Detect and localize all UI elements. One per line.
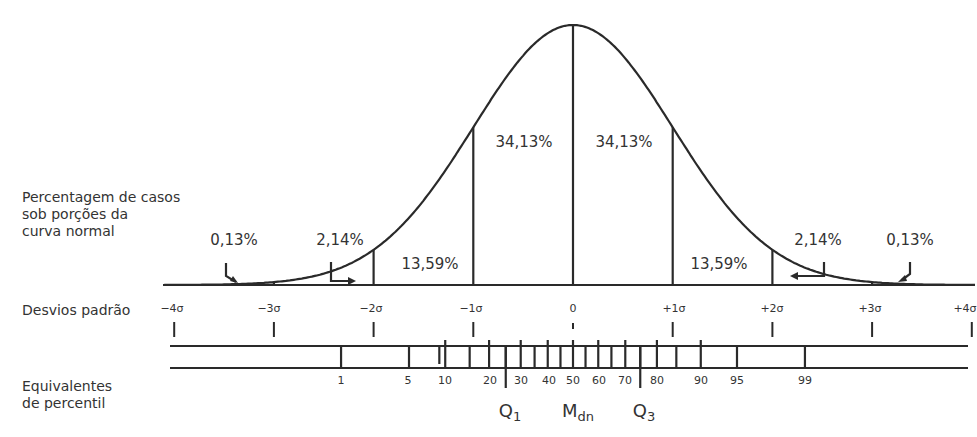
q3-subscript: 3 xyxy=(647,409,655,424)
q3-letter: Q xyxy=(633,400,647,421)
percentile-label-line1: Equivalentes xyxy=(22,378,112,395)
percent-cases-label: Percentagem de casos sob porções da curv… xyxy=(22,189,180,240)
percentile-value: 10 xyxy=(438,374,452,387)
pct-214-right: 2,14% xyxy=(794,231,842,249)
pct-1359-right: 13,59% xyxy=(690,255,747,273)
percentile-value: 50 xyxy=(566,374,580,387)
percentile-label-line2: de percentil xyxy=(22,395,112,412)
percentile-value: 90 xyxy=(694,374,708,387)
percentile-value: 20 xyxy=(483,374,497,387)
median-label: Mdn xyxy=(562,400,594,424)
percentile-value: 30 xyxy=(514,374,528,387)
percent-cases-line3: curva normal xyxy=(22,223,180,240)
percentile-value: 70 xyxy=(618,374,632,387)
percentile-value: 40 xyxy=(542,374,556,387)
percentile-value: 1 xyxy=(338,374,345,387)
pct-3413-left: 34,13% xyxy=(495,133,552,151)
normal-curve xyxy=(164,25,975,285)
sigma-label: −3σ xyxy=(257,302,280,315)
q1-subscript: 1 xyxy=(513,409,521,424)
percentile-value: 95 xyxy=(730,374,744,387)
sigma-label: +4σ xyxy=(953,302,976,315)
percentile-value: 60 xyxy=(592,374,606,387)
pct-tail-left: 0,13% xyxy=(210,231,258,249)
sigma-tick-marks xyxy=(174,322,972,337)
percent-cases-line2: sob porções da xyxy=(22,206,180,223)
std-dev-label: Desvios padrão xyxy=(22,302,130,319)
arrow-left-tail xyxy=(226,263,238,283)
pct-tail-right: 0,13% xyxy=(886,231,934,249)
percentile-label: Equivalentes de percentil xyxy=(22,378,112,412)
sigma-label: −2σ xyxy=(359,302,382,315)
sigma-label: 0 xyxy=(570,302,577,315)
percent-cases-line1: Percentagem de casos xyxy=(22,189,180,206)
pct-1359-left: 13,59% xyxy=(401,255,458,273)
arrow-right-tail xyxy=(898,262,910,282)
q1-letter: Q xyxy=(499,400,513,421)
percentile-value: 99 xyxy=(798,374,812,387)
percentile-value: 5 xyxy=(405,374,412,387)
sigma-label: +1σ xyxy=(662,302,685,315)
pct-3413-right: 34,13% xyxy=(595,133,652,151)
sigma-label: −1σ xyxy=(459,302,482,315)
percentile-value: 80 xyxy=(650,374,664,387)
median-subscript: dn xyxy=(578,409,595,424)
sigma-label: +2σ xyxy=(760,302,783,315)
sigma-label: +3σ xyxy=(858,302,881,315)
q1-label: Q1 xyxy=(499,400,521,424)
sigma-label: −4σ xyxy=(160,302,183,315)
pct-214-left: 2,14% xyxy=(316,231,364,249)
arrow-right-214 xyxy=(790,262,824,280)
q3-label: Q3 xyxy=(633,400,655,424)
median-letter: M xyxy=(562,400,578,421)
